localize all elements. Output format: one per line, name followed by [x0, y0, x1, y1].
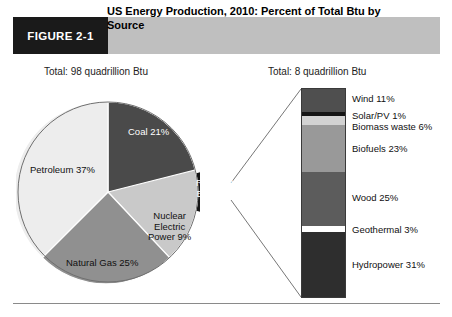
figure-bottom-rule — [13, 303, 440, 304]
figure-container: FIGURE 2-1 US Energy Production, 2010: P… — [0, 0, 452, 317]
pie-label-petroleum: Petroleum 37% — [30, 164, 95, 175]
bar-label-geothermal: Geothermal 3% — [352, 224, 418, 235]
bar-label-wood: Wood 25% — [352, 192, 398, 203]
bar-segment-biofuels — [302, 125, 345, 173]
bar-label-biomass-waste: Biomass waste 6% — [352, 121, 432, 132]
bar-label-hydropower: Hydropower 31% — [352, 259, 425, 270]
bar-segment-wood — [302, 172, 345, 225]
bar-segment-hydropower — [302, 232, 345, 297]
pie-label-nuclear: NuclearElectricPower 9% — [148, 211, 191, 243]
stacked-bar-chart — [301, 88, 346, 298]
bar-label-wind: Wind 11% — [352, 93, 395, 104]
bar-label-solar: Solar/PV 1% — [352, 110, 406, 121]
pie-label-renewable: RenewableEnergy 8% — [196, 177, 244, 199]
pie-label-natural-gas: Natural Gas 25% — [66, 257, 138, 268]
bar-segment-wind — [302, 89, 345, 112]
bar-segment-biomass — [302, 116, 345, 125]
pie-label-coal: Coal 21% — [128, 126, 169, 137]
bar-label-biofuels: Biofuels 23% — [352, 143, 407, 154]
